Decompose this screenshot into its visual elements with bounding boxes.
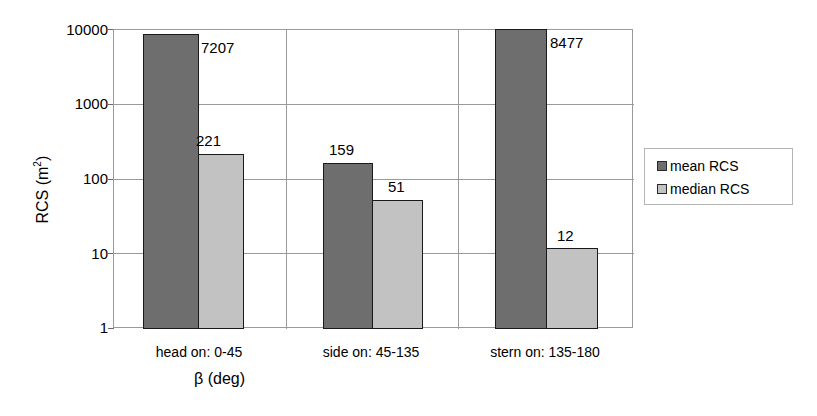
legend-item-median[interactable]: median RCS (657, 181, 749, 197)
x-category-label-stern-on: stern on: 135-180 (457, 345, 633, 360)
legend-label-mean: mean RCS (670, 159, 738, 173)
data-label-mean-stern-on: 8477 (550, 35, 583, 50)
y-axis-title-close: ) (34, 156, 51, 161)
bar-mean-head-on[interactable] (143, 34, 199, 329)
data-label-median-side-on: 51 (388, 179, 405, 194)
y-tick-label-100: 100 (30, 171, 108, 186)
legend-swatch-mean-icon (657, 161, 667, 171)
bar-mean-stern-on[interactable] (495, 29, 547, 329)
y-axis-title-exponent: 2 (32, 161, 43, 167)
legend: mean RCS median RCS (644, 148, 793, 205)
data-label-median-stern-on: 12 (557, 228, 574, 243)
data-label-median-head-on: 221 (196, 133, 221, 148)
y-axis-title-wrapper: RCS (m2) (22, 0, 62, 416)
legend-label-median: median RCS (670, 182, 749, 196)
category-divider-1 (286, 30, 287, 329)
x-category-label-head-on: head on: 0-45 (113, 345, 285, 360)
bar-median-stern-on[interactable] (546, 248, 598, 329)
y-tick-label-1000: 1000 (30, 96, 108, 111)
bar-median-side-on[interactable] (372, 200, 423, 329)
chart-canvas: RCS (m2) 10000 1000 100 10 1 7207 221 15… (0, 0, 817, 416)
legend-swatch-median-icon (657, 184, 667, 194)
x-axis-title: β (deg) (0, 370, 628, 388)
bar-mean-side-on[interactable] (323, 163, 373, 329)
y-tick-mark-1 (108, 328, 114, 329)
data-label-mean-head-on: 7207 (201, 40, 234, 55)
bar-median-head-on[interactable] (198, 154, 244, 329)
data-label-mean-side-on: 159 (329, 142, 354, 157)
y-tick-label-1: 1 (30, 320, 108, 335)
y-tick-label-10: 10 (30, 246, 108, 261)
legend-item-mean[interactable]: mean RCS (657, 158, 738, 174)
category-divider-2 (458, 30, 459, 329)
x-category-label-side-on: side on: 45-135 (285, 345, 457, 360)
y-tick-label-10000: 10000 (30, 22, 108, 37)
